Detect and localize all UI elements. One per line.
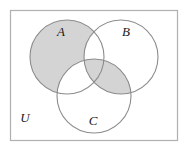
set-label-c: C: [89, 113, 98, 128]
set-label-b: B: [122, 24, 130, 39]
universe-label: U: [20, 110, 31, 125]
set-label-a: A: [56, 24, 65, 39]
venn-diagram: A B C U: [0, 0, 188, 151]
venn-diagram-canvas: A B C U: [0, 0, 188, 151]
